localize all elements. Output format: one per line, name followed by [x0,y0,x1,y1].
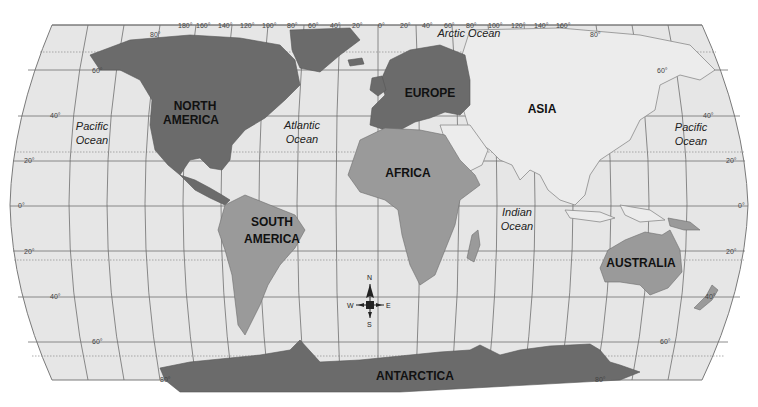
svg-text:60°: 60° [660,338,671,345]
pacific-ocean-west-label: Pacific [76,120,109,132]
indian-ocean-label: Indian [502,206,532,218]
svg-text:140°: 140° [218,22,233,29]
compass-n-label: N [367,274,372,281]
svg-text:40°: 40° [330,22,341,29]
svg-text:0°: 0° [378,22,385,29]
svg-text:80°: 80° [160,376,171,383]
svg-text:160°: 160° [556,22,571,29]
north-america-label: NORTH [174,99,217,113]
svg-text:60°: 60° [308,22,319,29]
asia-label: ASIA [528,102,557,116]
svg-text:80°: 80° [595,376,606,383]
svg-text:60°: 60° [92,67,103,74]
svg-text:180°: 180° [178,22,193,29]
antarctica-label: ANTARCTICA [376,369,454,383]
svg-text:40°: 40° [705,293,716,300]
north-america-label-line2: AMERICA [163,113,219,127]
atlantic-ocean-label: Atlantic [283,119,321,131]
svg-text:60°: 60° [92,338,103,345]
south-america-label: SOUTH [251,215,293,229]
svg-text:60°: 60° [657,67,668,74]
africa-label: AFRICA [385,166,431,180]
australia-label: AUSTRALIA [606,256,676,270]
svg-text:140°: 140° [534,22,549,29]
svg-text:20°: 20° [726,157,737,164]
svg-text:80°: 80° [590,31,601,38]
svg-text:0°: 0° [18,202,25,209]
svg-text:40°: 40° [703,112,714,119]
world-map: NORTH AMERICA SOUTH AMERICA EUROPE ASIA … [0,0,758,407]
svg-text:40°: 40° [422,22,433,29]
pacific-ocean-east-label-line2: Ocean [675,135,707,147]
svg-text:20°: 20° [24,157,35,164]
svg-text:60°: 60° [444,22,455,29]
svg-text:0°: 0° [738,202,745,209]
svg-text:40°: 40° [50,112,61,119]
pacific-ocean-west-label-line2: Ocean [76,134,108,146]
svg-text:120°: 120° [511,22,526,29]
svg-text:160°: 160° [196,22,211,29]
compass-s-label: S [367,321,372,328]
svg-text:120°: 120° [240,22,255,29]
europe-label: EUROPE [405,86,456,100]
svg-text:80°: 80° [287,22,298,29]
svg-text:100°: 100° [488,22,503,29]
svg-text:100°: 100° [262,22,277,29]
svg-text:20°: 20° [400,22,411,29]
svg-text:20°: 20° [352,22,363,29]
svg-text:80°: 80° [466,22,477,29]
svg-text:20°: 20° [24,248,35,255]
south-america-label-line2: AMERICA [244,232,300,246]
pacific-ocean-east-label: Pacific [675,121,708,133]
svg-text:40°: 40° [50,293,61,300]
svg-text:20°: 20° [726,248,737,255]
atlantic-ocean-label-line2: Ocean [286,133,318,145]
compass-w-label: W [347,302,354,309]
compass-e-label: E [386,302,391,309]
svg-text:80°: 80° [150,31,161,38]
indian-ocean-label-line2: Ocean [501,220,533,232]
